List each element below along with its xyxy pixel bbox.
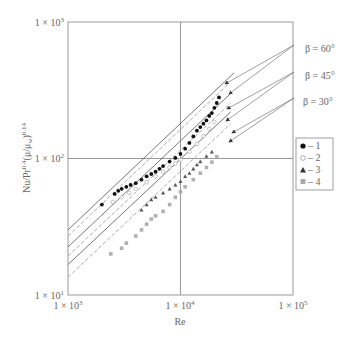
data-point-series-3 [168,187,172,191]
data-point-series-3 [198,160,202,164]
data-point-series-3 [154,195,158,199]
fit-line-3 [68,103,231,256]
data-point-series-4 [154,214,158,218]
x-tick-1e4: 1 × 104 [165,299,195,311]
y-axis-label: Nu/Pr0.4(μ/μw)0.14 [20,122,34,193]
data-point-series-4 [192,178,196,182]
data-point-series-1 [173,156,177,160]
data-point-series-3 [161,191,165,195]
data-point-series-2 [111,200,115,204]
data-point-series-4 [210,160,214,164]
data-point-series-3 [183,174,187,178]
data-point-series-3 [187,171,191,175]
data-point-series-3 [191,167,195,171]
data-point-series-1 [210,111,214,115]
annotation-arrow-1 [229,45,294,94]
annotation-arrows [225,45,294,142]
data-point-series-1 [188,141,192,145]
data-point-series-4 [205,166,209,170]
data-point-series-1 [179,152,183,156]
y-tick-1e2: 1 × 102 [35,152,65,164]
data-point-series-1 [161,164,165,168]
legend-label-3: – 3 [307,164,321,175]
data-point-series-2 [145,180,149,184]
fit-line-2 [68,93,231,247]
fit-line-1 [68,83,229,236]
data-point-series-2 [195,142,199,146]
data-point-series-3 [149,198,153,202]
data-point-series-2 [174,162,178,166]
data-point-series-3 [179,179,183,183]
legend-marker-open-circle [301,156,306,161]
data-point-series-4 [215,155,219,159]
legend-marker-grey-square [301,179,306,184]
data-point-series-2 [120,195,124,199]
data-point-series-1 [116,189,120,193]
data-point-series-1 [129,183,133,187]
data-point-series-1 [134,181,138,185]
data-point-series-2 [127,191,131,195]
chart: 1 × 103 1 × 102 1 × 101 1 × 103 1 × 104 … [0,0,348,340]
data-point-series-1 [113,192,117,196]
data-point-series-2 [188,150,192,154]
data-point-series-1 [198,125,202,129]
fit-line-4 [68,112,231,265]
data-point-series-4 [174,195,178,199]
x-tick-1e5: 1 × 105 [278,299,308,311]
fit-line-5 [68,124,231,278]
legend-label-2: – 2 [307,152,321,163]
annotation-arrow-0 [225,45,294,84]
legend-label-1: – 1 [307,140,321,151]
beta-labels: β = 60°β = 45°β = 30° [303,43,335,107]
data-point-series-4 [183,185,187,189]
data-point-series-2 [161,170,165,174]
data-point-series-1 [100,203,104,207]
data-point-series-1 [217,96,221,100]
data-point-series-4 [109,252,113,256]
data-point-series-1 [215,101,219,105]
y-tick-1e3: 1 × 103 [35,16,65,28]
beta-label-0: β = 60° [305,43,335,54]
data-point-series-1 [154,170,158,174]
data-point-series-3 [145,203,149,207]
data-point-series-1 [158,167,162,171]
data-point-series-1 [205,119,209,123]
data-point-series-3 [204,154,208,158]
legend-label-4: – 4 [307,176,321,187]
data-point-series-4 [134,234,138,238]
data-point-series-4 [161,210,165,214]
data-point-series-2 [202,134,206,138]
data-point-series-2 [134,187,138,191]
x-axis-label: Re [174,316,186,327]
data-point-series-4 [199,171,203,175]
data-point-series-1 [183,147,187,151]
data-point-series-2 [179,158,183,162]
data-point-series-3 [173,183,177,187]
data-point-series-1 [145,174,149,178]
annotation-arrow-5 [229,98,294,142]
data-point-series-4 [145,222,149,226]
beta-label-2: β = 30° [303,96,333,107]
beta-label-1: β = 45° [305,70,335,81]
data-point-series-1 [124,185,128,189]
data-point-series-1 [168,160,172,164]
data-point-series-1 [191,135,195,139]
fit-line-0 [68,73,234,230]
data-point-series-1 [212,106,216,110]
data-point-series-4 [125,241,129,245]
data-point-series-1 [149,172,153,176]
annotation-arrow-4 [232,98,294,133]
data-point-series-1 [195,129,199,133]
legend: – 1 – 2 – 3 – 4 [296,138,333,190]
data-point-series-2 [154,175,158,179]
data-point-series-4 [179,190,183,194]
x-tick-1e3: 1 × 103 [53,299,83,311]
data-point-series-2 [207,127,211,131]
data-point-series-1 [120,187,124,191]
data-point-series-1 [207,114,211,118]
data-point-series-1 [202,122,206,126]
annotation-arrow-3 [226,72,294,121]
data-point-series-3 [195,163,199,167]
data-point-series-4 [149,217,153,221]
data-point-series-4 [168,203,172,207]
